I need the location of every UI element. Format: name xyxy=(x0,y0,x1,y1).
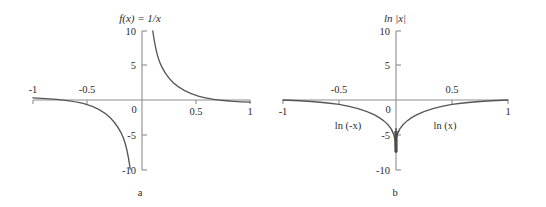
x-tick-label-a-3: 0.5 xyxy=(189,106,202,117)
x-tick-label-b-4: 1 xyxy=(505,106,510,117)
y-tick-label-b-0: 10 xyxy=(380,26,391,37)
curve-a-positive-branch xyxy=(153,31,250,102)
x-tick-label-b-0: -1 xyxy=(279,106,288,117)
panel-letter-b: b xyxy=(392,187,397,198)
y-tick-label-a-1: 5 xyxy=(131,60,136,71)
chart-title-b-text: ln |x| xyxy=(384,12,406,24)
y-tick-label-a-4: -10 xyxy=(122,165,136,176)
y-tick-label-a-3: -5 xyxy=(127,130,136,141)
x-tick-label-a-4: 1 xyxy=(247,106,252,117)
chart-panel-a: -1 -0.5 0 0.5 1 10 5 -5 -10 f(x) = 1/x a xyxy=(0,0,273,207)
x-tick-label-b-1: -0.5 xyxy=(331,84,348,95)
chart-title-b: ln |x| xyxy=(384,12,406,24)
chart-panel-b: -1 -0.5 0 0.5 1 10 5 -5 -10 ln |x| ln (-… xyxy=(273,0,546,207)
curve-a-negative-branch xyxy=(33,98,130,169)
figure-container: -1 -0.5 0 0.5 1 10 5 -5 -10 f(x) = 1/x a xyxy=(0,0,546,207)
panel-letter-a: a xyxy=(138,187,143,198)
y-tick-label-b-1: 5 xyxy=(385,60,390,71)
chart-a-svg: -1 -0.5 0 0.5 1 10 5 -5 -10 f(x) = 1/x a xyxy=(0,0,273,207)
chart-b-svg: -1 -0.5 0 0.5 1 10 5 -5 -10 ln |x| ln (-… xyxy=(273,0,546,207)
x-tick-label-a-2: 0 xyxy=(131,104,136,115)
x-tick-label-a-1: -0.5 xyxy=(79,84,96,95)
y-tick-label-b-4: -10 xyxy=(376,165,390,176)
curve-label-ln-x: ln (x) xyxy=(433,120,457,132)
y-tick-label-a-0: 10 xyxy=(126,26,137,37)
x-tick-label-b-3: 0.5 xyxy=(445,84,458,95)
chart-title-a-text: f(x) = 1/x xyxy=(119,12,161,25)
x-tick-label-a-0: -1 xyxy=(29,84,38,95)
y-tick-label-b-3: -5 xyxy=(381,130,390,141)
curve-label-ln-neg-x: ln (-x) xyxy=(335,120,362,132)
x-tick-label-b-2: 0 xyxy=(385,104,390,115)
chart-title-a: f(x) = 1/x xyxy=(119,12,161,25)
